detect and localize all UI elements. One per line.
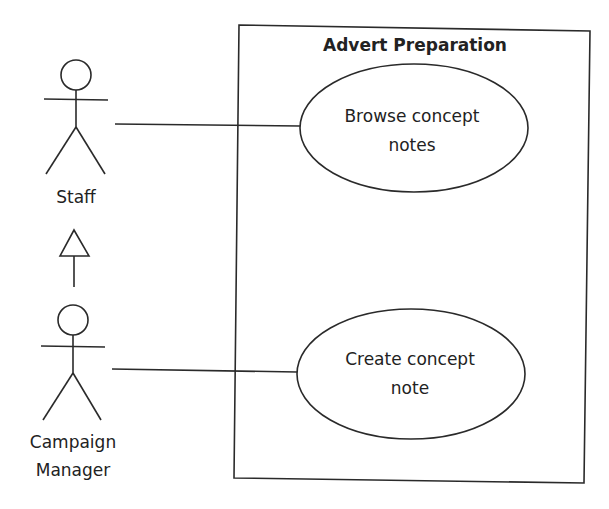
use-case-browse: Browse concept notes (300, 64, 528, 192)
actor-label-campaign-line2: Manager (36, 460, 111, 480)
association-manager-create (112, 369, 297, 372)
use-case-diagram: Advert Preparation Staff Campaign Manage… (0, 0, 609, 509)
actor-arms (44, 99, 108, 100)
use-case-label-line1: Browse concept (344, 106, 479, 126)
system-boundary-box (234, 25, 590, 483)
actor-left-leg (43, 373, 73, 420)
actor-right-leg (73, 373, 101, 420)
system-boundary: Advert Preparation (234, 25, 590, 483)
use-case-label-line1: Create concept (345, 349, 475, 369)
actor-label-campaign-line1: Campaign (30, 432, 116, 452)
actor-label-staff: Staff (56, 187, 97, 207)
actor-staff: Staff (44, 60, 108, 207)
actor-head (61, 60, 91, 90)
use-case-ellipse (300, 64, 528, 192)
actor-campaign-manager: Campaign Manager (30, 305, 116, 480)
system-boundary-title: Advert Preparation (323, 35, 507, 55)
actor-left-leg (46, 127, 76, 174)
actor-right-leg (76, 127, 105, 174)
use-case-label-line2: notes (388, 135, 435, 155)
use-case-label-line2: note (391, 378, 429, 398)
use-case-create: Create concept note (297, 309, 525, 439)
association-staff-browse (115, 124, 300, 126)
generalization-arrow (60, 230, 89, 287)
use-case-ellipse (297, 309, 525, 439)
actor-head (58, 305, 88, 335)
hollow-triangle-icon (60, 230, 89, 256)
actor-arms (41, 346, 105, 347)
